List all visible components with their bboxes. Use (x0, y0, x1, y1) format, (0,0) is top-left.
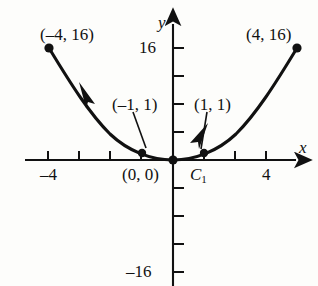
point-4-16 (292, 43, 301, 52)
point-label-neg4-16: (–4, 16) (40, 26, 94, 43)
y-tick-label--16: –16 (126, 263, 152, 280)
point-1-1 (200, 149, 208, 157)
point-0-0 (168, 155, 177, 164)
curve-name-label: C1 (190, 166, 207, 183)
point-label-0-0: (0, 0) (122, 166, 159, 183)
curve-name-base: C (190, 165, 201, 184)
leader-line-neg1-1 (133, 112, 146, 148)
direction-arrow-left (79, 82, 95, 108)
x-axis-label: x (299, 139, 307, 156)
y-tick-label-16: 16 (139, 39, 156, 56)
y-axis-label: y (158, 14, 166, 31)
curve-name-subscript: 1 (201, 173, 207, 185)
point-label-1-1: (1, 1) (194, 96, 231, 113)
parabola-figure: (–4, 16) (4, 16) (–1, 1) (1, 1) (0, 0) –… (0, 0, 318, 286)
x-tick-label-4: 4 (262, 166, 271, 183)
point-label-neg1-1: (–1, 1) (112, 96, 157, 113)
point-neg1-1 (138, 149, 146, 157)
point-label-4-16: (4, 16) (246, 26, 291, 43)
point-neg4-16 (44, 43, 53, 52)
y-axis (173, 24, 184, 286)
x-tick-label--4: –4 (40, 166, 57, 183)
